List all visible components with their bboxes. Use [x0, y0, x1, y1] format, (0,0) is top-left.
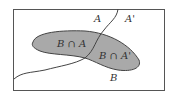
label-b: B	[109, 72, 117, 83]
label-b-intersect-a: B ∩ A	[56, 38, 86, 49]
venn-diagram: A A' B ∩ A B ∩ A' B	[0, 0, 173, 97]
label-a-complement: A'	[124, 13, 135, 24]
label-a: A	[93, 13, 101, 24]
label-b-intersect-a-complement: B ∩ A'	[98, 50, 131, 61]
